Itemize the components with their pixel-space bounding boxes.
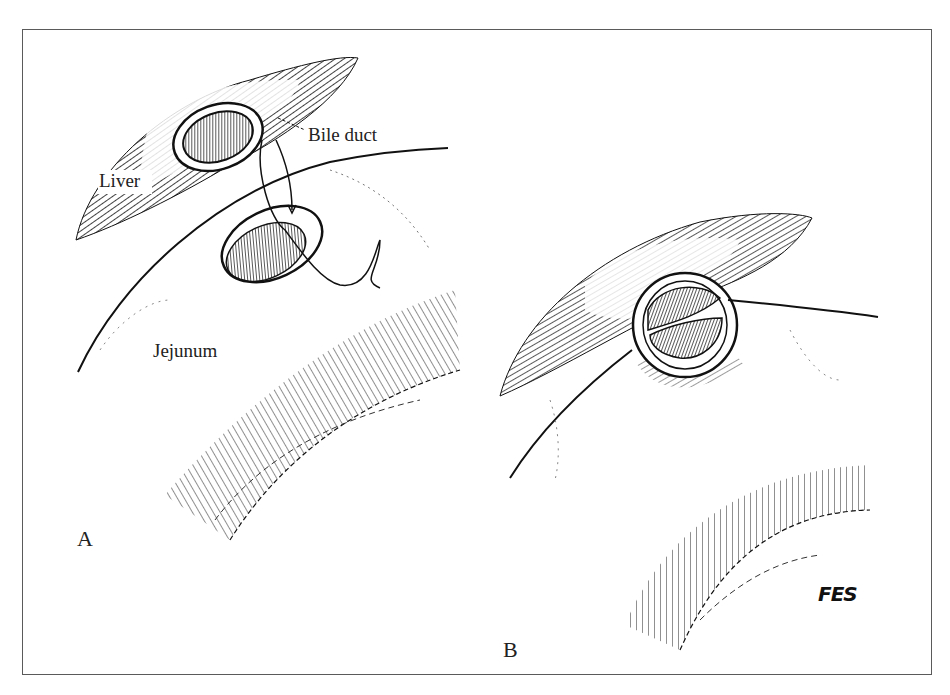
bowel-segment-a <box>165 290 460 540</box>
label-jejunum: Jejunum <box>153 340 217 362</box>
bowel-segment-b <box>625 465 870 650</box>
artist-signature: FES <box>818 582 857 606</box>
panel-label-a: A <box>77 526 93 552</box>
label-liver: Liver <box>99 170 140 192</box>
label-bile-duct: Bile duct <box>308 124 377 146</box>
panel-a-drawing <box>76 57 460 540</box>
illustration-canvas <box>0 0 950 695</box>
panel-label-b: B <box>503 637 518 663</box>
